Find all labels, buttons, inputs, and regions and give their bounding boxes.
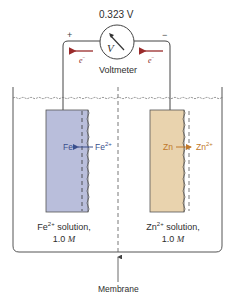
electron-label-right: e− [148,55,154,65]
zn-solution-ion: Zn [146,222,157,232]
voltmeter-dial [100,25,134,59]
voltmeter-label: Voltmeter [99,66,137,75]
fe-solution-label: Fe2+ solution, [36,221,92,232]
electron-label-left: e− [79,55,85,65]
fe-solution-ion: Fe [37,222,48,232]
zn-solution-text: solution, [164,222,200,232]
negative-terminal-label: − [162,31,167,40]
zn-metal-label: Zn [163,143,173,152]
fe-ion-label: Fe2+ [95,141,112,151]
zn-concentration-unit: M [177,234,185,244]
fe-solution-charge: 2+ [48,221,55,227]
membrane-label: Membrane [98,285,139,294]
fe-ion-charge: 2+ [105,141,112,147]
galvanic-cell-diagram [0,0,229,297]
zn-ion-charge: 2+ [206,141,213,147]
fe-ion-symbol: Fe [95,142,105,152]
zn-electrode [150,110,189,212]
zn-concentration-value: 1.0 [162,234,177,244]
zn-solution-label: Zn2+ solution, [142,221,204,232]
fe-solution-text: solution, [55,222,91,232]
voltmeter-symbol: V [107,42,114,54]
electron-charge: − [152,55,155,60]
fe-concentration-unit: M [68,234,76,244]
zn-ion-label: Zn2+ [196,141,213,151]
fe-metal-label: Fe [63,143,73,152]
zn-concentration: 1.0 M [142,235,204,244]
zn-solution-charge: 2+ [157,221,164,227]
fe-concentration-value: 1.0 [53,234,68,244]
fe-concentration: 1.0 M [36,235,92,244]
fe-electrode [46,110,89,212]
zn-ion-symbol: Zn [196,142,206,152]
electron-charge: − [83,55,86,60]
voltage-reading: 0.323 V [99,10,133,20]
positive-terminal-label: + [67,31,72,40]
